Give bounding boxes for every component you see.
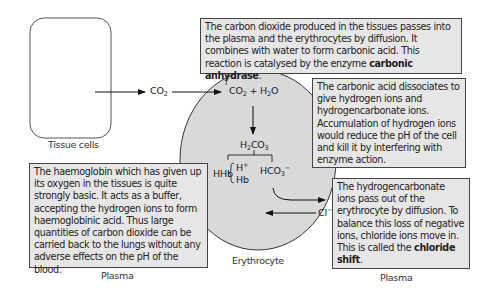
plasma-left-label: Plasma <box>101 270 133 281</box>
hydrogen-ion: H+ <box>236 161 248 173</box>
chloride-ion: Cl− <box>318 206 332 218</box>
haemoglobin: Hb <box>236 174 249 185</box>
plasma-right-label: Plasma <box>380 272 412 283</box>
erythrocyte-label: Erythrocyte <box>232 255 284 266</box>
info-box-haemoglobin-buffer: The haemoglobin which has given up its o… <box>29 163 208 268</box>
co2-plus-water: CO2 + H2O <box>229 85 278 98</box>
tissue-cells-label: Tissue cells <box>48 139 99 150</box>
hydrogencarbonate-ion: HCO3− <box>260 164 290 178</box>
info-box-dissociation: The carbonic acid dissociates to give hy… <box>312 78 466 168</box>
carbonic-acid: H2CO3 <box>240 139 269 152</box>
hhb-label: HHb <box>213 168 233 179</box>
info-box-chloride-shift: The hydrogencarbonate ions pass out of t… <box>332 178 470 269</box>
tissue-cell-shape <box>30 18 111 138</box>
co2-outside: CO2 <box>150 85 168 98</box>
info-box-carbonic-anhydrase: The carbon dioxide produced in the tissu… <box>200 18 462 74</box>
